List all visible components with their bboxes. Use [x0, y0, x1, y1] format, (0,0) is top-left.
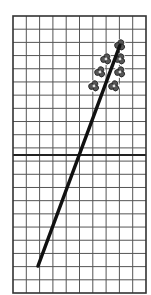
rosette-marker: [114, 66, 126, 78]
grid-diagram: [0, 0, 151, 295]
diagram-canvas: [0, 0, 151, 295]
rosette-marker: [100, 53, 112, 65]
rosette-marker: [88, 80, 100, 92]
rosette-marker: [108, 80, 120, 92]
rosette-marker: [94, 66, 106, 78]
